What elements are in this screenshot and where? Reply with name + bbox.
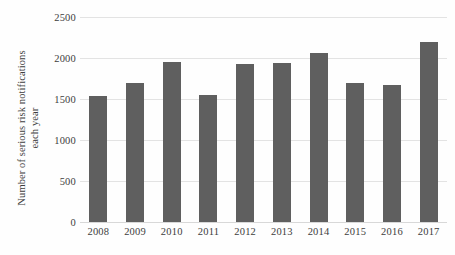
- bar: [346, 83, 364, 222]
- bar: [126, 83, 144, 222]
- y-tick-label: 2500: [42, 12, 76, 23]
- bar-slot: [153, 17, 190, 222]
- bar: [383, 85, 401, 222]
- bar-chart-figure: Number of serious risk notifications eac…: [0, 0, 455, 255]
- bar-slot: [117, 17, 154, 222]
- bar: [89, 96, 107, 222]
- bar-slot: [410, 17, 447, 222]
- bar: [310, 53, 328, 222]
- plot-area: [80, 17, 447, 222]
- bar: [236, 64, 254, 222]
- axis-baseline: [80, 222, 447, 223]
- x-tick-label: 2017: [410, 226, 447, 246]
- x-tick-label: 2015: [337, 226, 374, 246]
- bar-slot: [264, 17, 301, 222]
- y-axis-title-line-1: Number of serious risk notifications: [16, 50, 27, 205]
- bar-slot: [227, 17, 264, 222]
- x-tick-label: 2011: [190, 226, 227, 246]
- bar-slot: [374, 17, 411, 222]
- y-tick-label: 500: [42, 176, 76, 187]
- x-tick-label: 2014: [300, 226, 337, 246]
- y-tick-label: 1000: [42, 135, 76, 146]
- y-tick-label: 1500: [42, 94, 76, 105]
- x-tick-label: 2008: [80, 226, 117, 246]
- bar-slot: [337, 17, 374, 222]
- x-axis-tick-labels: 2008200920102011201220132014201520162017: [80, 226, 447, 246]
- y-tick-label: 2000: [42, 53, 76, 64]
- y-axis-tick-labels: 05001000150020002500: [38, 0, 76, 255]
- x-tick-label: 2013: [264, 226, 301, 246]
- bar-series: [80, 17, 447, 222]
- bar-slot: [80, 17, 117, 222]
- y-tick-label: 0: [42, 217, 76, 228]
- bar: [163, 62, 181, 222]
- x-tick-label: 2012: [227, 226, 264, 246]
- x-tick-label: 2016: [374, 226, 411, 246]
- bar: [273, 63, 291, 222]
- bar-slot: [190, 17, 227, 222]
- bar: [199, 95, 217, 222]
- bar-slot: [300, 17, 337, 222]
- x-tick-label: 2009: [117, 226, 154, 246]
- x-tick-label: 2010: [153, 226, 190, 246]
- bar: [420, 42, 438, 222]
